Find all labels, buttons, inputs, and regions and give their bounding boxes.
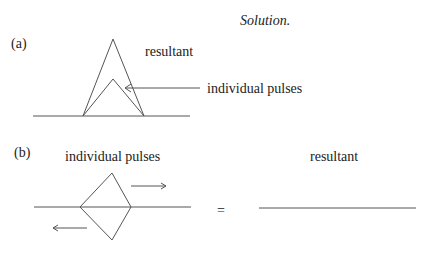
diagram-canvas: [0, 0, 428, 260]
part-a-individual-pulse: [83, 79, 144, 116]
